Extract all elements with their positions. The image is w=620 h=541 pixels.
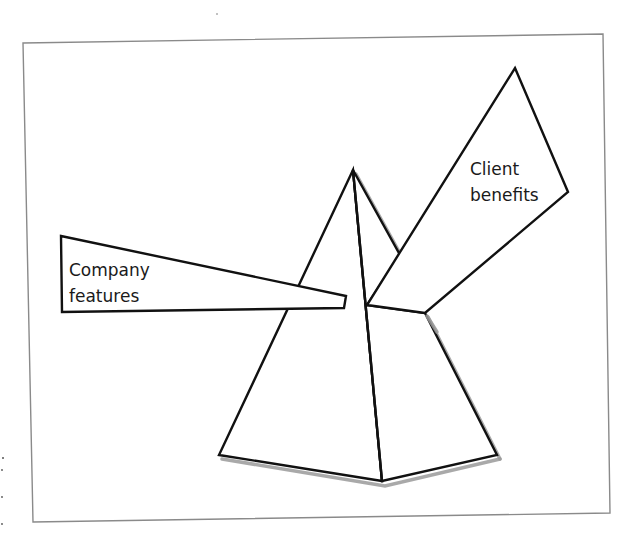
company-features-label-line2: features (69, 286, 139, 306)
prism-diagram: Company features Client benefits (0, 0, 620, 541)
client-benefits-label-line1: Client (470, 159, 520, 179)
client-benefits-label-line2: benefits (470, 185, 539, 205)
company-features-label-line1: Company (69, 260, 150, 280)
